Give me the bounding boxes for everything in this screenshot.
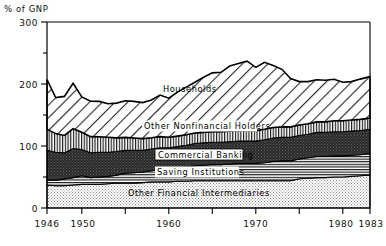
y-axis-title: % of GNP — [4, 4, 49, 14]
series-label-commercial-banking-group: Commercial Banking — [155, 149, 254, 160]
y-tick-label-300: 300 — [19, 18, 38, 28]
y-tick-labels: 300 200 100 0 — [19, 18, 38, 214]
series-label-saving-institutions: Saving Institutions — [157, 167, 244, 177]
series-label-other-financial-intermediaries: Other Financial Intermediaries — [128, 188, 270, 198]
series-label-households: Households — [163, 84, 217, 94]
x-tick-label-1980: 1980 — [329, 219, 354, 229]
x-tick-label-1946: 1946 — [35, 219, 60, 229]
series-label-commercial-banking: Commercial Banking — [158, 150, 254, 160]
x-tick-label-1983: 1983 — [359, 219, 384, 229]
y-tick-label-100: 100 — [19, 142, 38, 152]
x-tick-labels: 1946 1950 1960 1970 1980 1983 — [35, 219, 384, 229]
series-label-other-nonfinancial-holders: Other Nonfinancial Holders — [144, 121, 270, 131]
x-tick-label-1950: 1950 — [71, 219, 96, 229]
chart-root: 300 200 100 0 1946 1950 1960 1970 1980 1… — [0, 0, 386, 246]
y-tick-label-0: 0 — [32, 204, 38, 214]
series-label-other-nonfinancial-holders-group: Other Nonfinancial Holders — [142, 121, 270, 132]
y-tick-label-200: 200 — [19, 80, 38, 90]
stacked-area-chart: 300 200 100 0 1946 1950 1960 1970 1980 1… — [0, 0, 386, 246]
x-tick-label-1960: 1960 — [156, 219, 181, 229]
series-label-saving-institutions-group: Saving Institutions — [155, 167, 244, 178]
x-tick-label-1970: 1970 — [243, 219, 268, 229]
